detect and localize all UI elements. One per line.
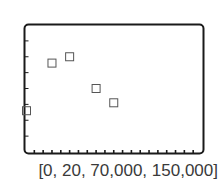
window-range-caption: [0, 20, 70,000, 150,000] bbox=[0, 161, 221, 181]
data-points bbox=[23, 53, 118, 115]
data-point bbox=[110, 99, 118, 107]
data-point bbox=[66, 53, 74, 61]
plot-frame bbox=[25, 25, 204, 154]
data-point bbox=[92, 85, 100, 93]
data-point bbox=[48, 59, 56, 67]
